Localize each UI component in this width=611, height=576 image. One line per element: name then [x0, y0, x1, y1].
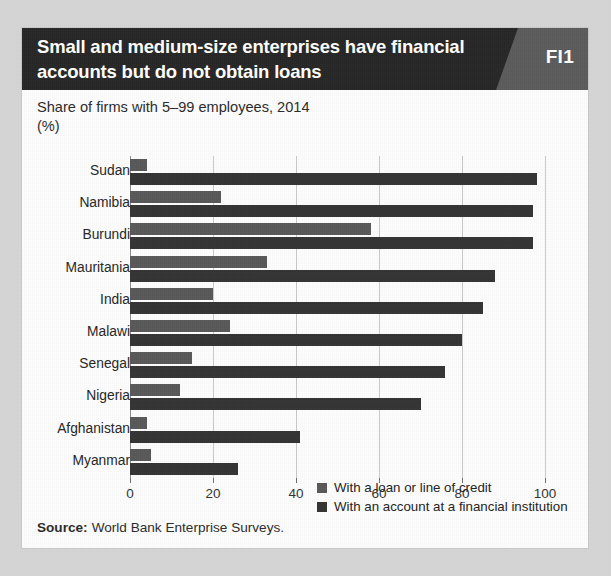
chart-bar — [130, 320, 230, 332]
chart-xtick-label: 20 — [205, 486, 220, 501]
chart-category-label: India — [26, 292, 130, 307]
chart-bar — [130, 334, 462, 346]
chart-bar — [130, 223, 371, 235]
chart-xtick-label: 0 — [126, 486, 134, 501]
chart-gridline — [545, 156, 546, 478]
chart-category-label: Mauritania — [26, 260, 130, 275]
chart-category-label: Nigeria — [26, 388, 130, 403]
chart-bar — [130, 256, 267, 268]
chart-plot-area: 020406080100SudanNamibiaBurundiMauritani… — [22, 148, 588, 508]
source-label: Source: — [37, 520, 88, 535]
chart-bar — [130, 270, 495, 282]
chart-bar — [130, 237, 533, 249]
chart-bar-group: Sudan — [130, 156, 545, 188]
subtitle-line-1: Share of firms with 5–99 employees, 2014 — [37, 98, 310, 117]
chart-bar — [130, 463, 238, 475]
chart-category-label: Senegal — [26, 356, 130, 371]
chart-bar — [130, 159, 147, 171]
legend-swatch-icon — [317, 483, 327, 493]
chart-bar — [130, 191, 221, 203]
chart-bar — [130, 449, 151, 461]
chart-bar — [130, 205, 533, 217]
chart-bar-group: India — [130, 285, 545, 317]
chart-bar — [130, 352, 192, 364]
chart-bar-group: Nigeria — [130, 381, 545, 413]
figure-title: Small and medium-size enterprises have f… — [37, 34, 477, 84]
chart-bar-group: Malawi — [130, 317, 545, 349]
chart-bar-group: Afghanistan — [130, 414, 545, 446]
figure-subtitle: Share of firms with 5–99 employees, 2014… — [37, 98, 310, 136]
chart-bar-group: Namibia — [130, 188, 545, 220]
figure-card: Small and medium-size enterprises have f… — [22, 28, 588, 548]
chart-category-label: Sudan — [26, 163, 130, 178]
source-text: World Bank Enterprise Surveys. — [92, 520, 284, 535]
chart-bar — [130, 366, 445, 378]
chart-bar-group: Senegal — [130, 349, 545, 381]
chart-bar-group: Burundi — [130, 220, 545, 252]
figure-badge-label: FI1 — [546, 46, 574, 68]
subtitle-line-2: (%) — [37, 117, 310, 136]
chart-xtick — [213, 478, 214, 483]
figure-header: Small and medium-size enterprises have f… — [22, 28, 588, 90]
chart-bar — [130, 173, 537, 185]
figure-badge: FI1 — [496, 28, 588, 90]
chart-bar — [130, 288, 213, 300]
chart-xtick-label: 40 — [288, 486, 303, 501]
figure-page: Small and medium-size enterprises have f… — [0, 0, 611, 576]
chart-bar — [130, 384, 180, 396]
chart-category-label: Myanmar — [26, 453, 130, 468]
legend-item-label: With a loan or line of credit — [334, 480, 491, 495]
legend-item: With a loan or line of credit — [317, 478, 568, 497]
chart-bar — [130, 431, 300, 443]
chart-bar — [130, 302, 483, 314]
chart-bar-group: Myanmar — [130, 446, 545, 478]
chart-bar — [130, 417, 147, 429]
chart-bar — [130, 398, 421, 410]
legend-item-label: With an account at a financial instituti… — [334, 499, 568, 514]
chart-category-label: Afghanistan — [26, 421, 130, 436]
chart-grid: 020406080100SudanNamibiaBurundiMauritani… — [130, 156, 545, 478]
chart-xtick — [296, 478, 297, 483]
legend-item: With an account at a financial instituti… — [317, 497, 568, 516]
chart-bar-group: Mauritania — [130, 253, 545, 285]
legend-swatch-icon — [317, 502, 327, 512]
chart-category-label: Burundi — [26, 227, 130, 242]
chart-category-label: Malawi — [26, 324, 130, 339]
chart-legend: With a loan or line of creditWith an acc… — [317, 478, 568, 516]
source-note: Source:World Bank Enterprise Surveys. — [37, 520, 284, 535]
chart-xtick — [130, 478, 131, 483]
chart-category-label: Namibia — [26, 195, 130, 210]
